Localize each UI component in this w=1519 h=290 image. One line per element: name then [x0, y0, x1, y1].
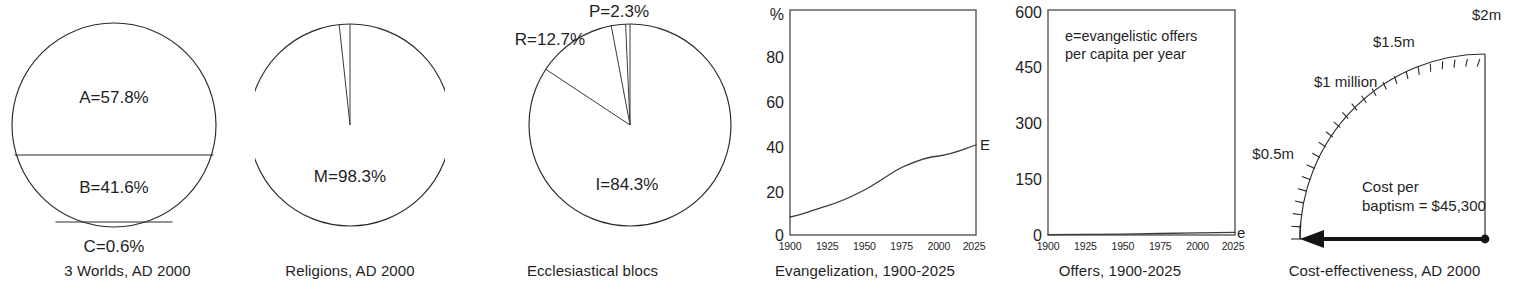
- series-label-e: e: [1237, 224, 1245, 241]
- y-tick-150: 150: [1015, 171, 1042, 188]
- panel-caption-ecclesiastical-blocs: Ecclesiastical blocs: [445, 262, 740, 280]
- panel-caption-offers: Offers, 1900-2025: [990, 262, 1250, 280]
- y-tick-300: 300: [1015, 115, 1042, 132]
- x-tick-1975: 1975: [890, 240, 913, 252]
- plot-frame: [790, 10, 976, 235]
- y-axis-unit: %: [770, 6, 784, 23]
- y-tick-20: 20: [766, 184, 784, 201]
- panel-ecclesiastical-blocs: P=2.3% R=12.7% I=84.3% Ecclesiastical bl…: [445, 0, 740, 290]
- x-tick-1950: 1950: [1112, 240, 1135, 252]
- y-tick-450: 450: [1015, 59, 1042, 76]
- label-slice-i: I=84.3%: [596, 175, 659, 194]
- x-tick-1975: 1975: [1149, 240, 1172, 252]
- panel-caption-cost-effectiveness: Cost-effectiveness, AD 2000: [1250, 262, 1519, 280]
- pie-radius-other: [339, 25, 350, 125]
- cost-effectiveness-gauge: $0.5m $1 million $1.5m $2m Cost per bapt…: [1250, 0, 1519, 262]
- gauge-pivot: [1481, 235, 1490, 244]
- gauge-readout-line-2: baptism = $45,300: [1362, 197, 1486, 214]
- panel-offers: 600 450 300 150 0 1900 1925 1950 1975 20…: [990, 0, 1250, 290]
- x-tick-1925: 1925: [816, 240, 839, 252]
- x-tick-2000: 2000: [1186, 240, 1209, 252]
- panel-caption-three-worlds: 3 Worlds, AD 2000: [0, 262, 255, 280]
- pie-radius-r-end: [546, 69, 630, 125]
- gauge-needle-arrowhead: [1300, 230, 1324, 248]
- panel-evangelization: % 80 60 40 20 0 1900 1925 1950 1975 2000…: [740, 0, 990, 290]
- gauge-label-two-million: $2m: [1472, 6, 1501, 23]
- gauge-label-one-million: $1 million: [1314, 73, 1377, 90]
- label-slice-p: P=2.3%: [589, 2, 649, 21]
- panel-caption-religions: Religions, AD 2000: [255, 262, 445, 280]
- note-line-2: per capita per year: [1065, 46, 1186, 62]
- evangelization-line-chart: % 80 60 40 20 0 1900 1925 1950 1975 2000…: [740, 0, 990, 262]
- x-tick-2025: 2025: [1222, 240, 1245, 252]
- panel-religions: M=98.3% Religions, AD 2000: [255, 0, 445, 290]
- gauge-label-half-million: $0.5m: [1252, 145, 1294, 162]
- x-tick-1900: 1900: [1037, 240, 1060, 252]
- series-line-e: [1048, 232, 1235, 234]
- x-tick-1925: 1925: [1074, 240, 1097, 252]
- pie-radius-p-end: [611, 25, 630, 125]
- pie-radius-other-end: [626, 24, 630, 125]
- multi-panel-figure: A=57.8% B=41.6% C=0.6% 3 Worlds, AD 2000…: [0, 0, 1519, 290]
- x-tick-1900: 1900: [779, 240, 802, 252]
- three-worlds-band-circle: A=57.8% B=41.6% C=0.6%: [0, 0, 255, 262]
- offers-line-chart: 600 450 300 150 0 1900 1925 1950 1975 20…: [990, 0, 1250, 262]
- label-band-c: C=0.6%: [84, 237, 145, 256]
- label-band-b: B=41.6%: [79, 178, 148, 197]
- panel-caption-evangelization: Evangelization, 1900-2025: [740, 262, 990, 280]
- ecclesiastical-blocs-pie-chart: P=2.3% R=12.7% I=84.3%: [445, 0, 740, 262]
- y-tick-80: 80: [766, 49, 784, 66]
- gauge-readout-line-1: Cost per: [1362, 178, 1419, 195]
- y-tick-40: 40: [766, 139, 784, 156]
- y-tick-60: 60: [766, 94, 784, 111]
- panel-three-worlds: A=57.8% B=41.6% C=0.6% 3 Worlds, AD 2000: [0, 0, 255, 290]
- series-label-e: E: [980, 136, 990, 153]
- x-tick-2000: 2000: [928, 240, 951, 252]
- note-line-1: e=evangelistic offers: [1065, 28, 1197, 44]
- gauge-label-one-and-half-million: $1.5m: [1373, 33, 1415, 50]
- x-tick-2025: 2025: [963, 240, 986, 252]
- panel-cost-effectiveness: $0.5m $1 million $1.5m $2m Cost per bapt…: [1250, 0, 1519, 290]
- label-slice-r: R=12.7%: [515, 30, 585, 49]
- label-band-a: A=57.8%: [79, 88, 148, 107]
- x-tick-1950: 1950: [853, 240, 876, 252]
- label-slice-m: M=98.3%: [314, 167, 386, 186]
- religions-pie-chart: M=98.3%: [255, 0, 445, 262]
- series-line-e: [790, 145, 976, 217]
- y-tick-600: 600: [1015, 4, 1042, 21]
